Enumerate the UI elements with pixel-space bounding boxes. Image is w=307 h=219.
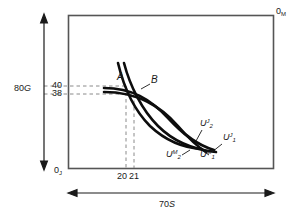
vertical-axis-label: 80G bbox=[14, 84, 31, 93]
curve-u1m bbox=[104, 88, 214, 150]
point-b-label: B bbox=[151, 75, 158, 85]
edgeworth-box-frame bbox=[69, 16, 274, 169]
y-tick-38: 38 bbox=[52, 89, 62, 98]
leader-u2j bbox=[196, 130, 202, 141]
origin-j-label: 0J bbox=[54, 166, 62, 176]
curve-label-u1m: UM1 bbox=[200, 149, 215, 160]
curve-label-u1j: UJ1 bbox=[223, 132, 236, 143]
x-tick-21: 21 bbox=[129, 172, 139, 181]
vertical-axis-arrow bbox=[41, 14, 48, 170]
leader-u2m bbox=[182, 150, 190, 155]
curve-u1j bbox=[124, 63, 216, 152]
curve-label-u2m: UM2 bbox=[166, 149, 181, 160]
origin-m-label: 0M bbox=[276, 7, 286, 17]
x-tick-20: 20 bbox=[117, 172, 127, 181]
edgeworth-box-svg bbox=[0, 0, 307, 219]
leader-point-b bbox=[141, 84, 150, 89]
horizontal-axis-label: 70S bbox=[159, 200, 175, 209]
curve-label-u2j: UJ2 bbox=[200, 118, 213, 129]
figure-canvas: 0J 0M 80G 70S 40 38 20 21 A B UJ2 UJ1 UM… bbox=[0, 0, 307, 219]
point-a-label: A bbox=[117, 72, 124, 82]
guide-lines bbox=[44, 86, 134, 168]
horizontal-axis-arrow bbox=[68, 190, 274, 197]
